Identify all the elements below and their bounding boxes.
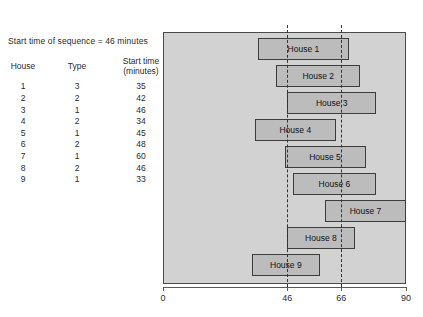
type-cell: 2: [60, 116, 108, 126]
x-tick-mark: [287, 287, 288, 291]
column-header-type: Type: [60, 61, 108, 71]
gantt-plot-area: House 1House 2House 3House 4House 5House…: [163, 32, 406, 284]
house-cell: 9: [8, 174, 60, 184]
gantt-bar: House 4: [255, 119, 336, 141]
column-header-house: House: [8, 61, 60, 71]
x-tick-mark: [406, 287, 407, 291]
type-cell: 1: [60, 128, 108, 138]
type-cell: 1: [60, 174, 108, 184]
house-cell: 4: [8, 116, 60, 126]
type-cell: 2: [60, 139, 108, 149]
type-cell: 1: [60, 105, 108, 115]
house-cell: 5: [8, 128, 60, 138]
gantt-bar: House 1: [258, 38, 350, 60]
x-axis-line: [163, 287, 406, 288]
reference-line-66: [341, 25, 342, 287]
gantt-bar: House 6: [293, 173, 377, 195]
x-tick-mark: [163, 287, 164, 291]
x-tick-label: 0: [160, 293, 165, 303]
house-cell: 1: [8, 81, 60, 91]
house-cell: 8: [8, 163, 60, 173]
x-tick-label: 66: [336, 293, 346, 303]
house-cell: 6: [8, 139, 60, 149]
sequence-start-caption: Start time of sequence = 46 minutes: [8, 36, 148, 46]
type-cell: 3: [60, 81, 108, 91]
gantt-bar: House 8: [287, 227, 355, 249]
gantt-bar: House 5: [285, 146, 366, 168]
gantt-bar: House 3: [287, 92, 376, 114]
x-tick-label: 46: [282, 293, 292, 303]
gantt-bar: House 7: [325, 200, 406, 222]
gantt-bar: House 2: [276, 65, 360, 87]
x-tick-mark: [341, 287, 342, 291]
gantt-bar: House 9: [252, 254, 320, 276]
reference-line-46: [287, 25, 288, 287]
type-cell: 2: [60, 163, 108, 173]
house-cell: 3: [8, 105, 60, 115]
house-cell: 7: [8, 151, 60, 161]
type-cell: 2: [60, 93, 108, 103]
x-tick-label: 90: [401, 293, 411, 303]
house-cell: 2: [8, 93, 60, 103]
type-cell: 1: [60, 151, 108, 161]
